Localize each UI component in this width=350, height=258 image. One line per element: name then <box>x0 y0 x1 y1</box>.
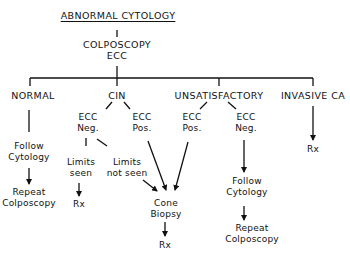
root-node-abnormal-cytology: ABNORMAL CYTOLOGY <box>61 10 176 21</box>
unsat-step2-line1: Repeat <box>225 223 279 234</box>
unsat-repeat-colposcopy: Repeat Colposcopy <box>225 223 279 245</box>
branch-normal: NORMAL <box>11 90 55 101</box>
normal-step1-line1: Follow <box>8 141 49 152</box>
procedure-line1: COLPOSCOPY <box>83 39 151 50</box>
unsat-ecc-pos-line2: Pos. <box>183 123 202 134</box>
normal-follow-cytology: Follow Cytology <box>8 141 49 163</box>
cin-ecc-neg-line2: Neg. <box>77 123 99 134</box>
unsat-step1-line2: Cytology <box>226 187 267 198</box>
limits-not-seen-line2: not seen <box>107 168 148 179</box>
limits-seen-line1: Limits <box>67 157 95 168</box>
cin-ecc-neg-line1: ECC <box>77 112 99 123</box>
cone-biopsy-rx: Rx <box>159 240 171 251</box>
branch-unsatisfactory: UNSATISFACTORY <box>175 90 264 101</box>
cin-ecc-pos-line2: Pos. <box>133 123 152 134</box>
normal-step1-line2: Cytology <box>8 152 49 163</box>
invasive-rx: Rx <box>307 144 319 155</box>
branch-cin: CIN <box>108 90 126 101</box>
limits-not-seen-line1: Limits <box>107 157 148 168</box>
procedure-node-colposcopy: COLPOSCOPY ECC <box>83 39 151 61</box>
procedure-line2: ECC <box>83 50 151 61</box>
cin-limits-seen: Limits seen <box>67 157 95 179</box>
unsat-ecc-neg-line1: ECC <box>235 112 257 123</box>
cin-limits-seen-rx: Rx <box>73 199 85 210</box>
limits-seen-line2: seen <box>67 168 95 179</box>
cone-biopsy-line2: Biopsy <box>150 209 181 220</box>
unsat-step2-line2: Colposcopy <box>225 234 279 245</box>
unsat-ecc-neg: ECC Neg. <box>235 112 257 134</box>
cin-ecc-pos: ECC Pos. <box>133 112 152 134</box>
unsat-ecc-pos-line1: ECC <box>183 112 202 123</box>
unsat-ecc-pos: ECC Pos. <box>183 112 202 134</box>
cin-ecc-neg: ECC Neg. <box>77 112 99 134</box>
unsat-follow-cytology: Follow Cytology <box>226 176 267 198</box>
normal-step2-line1: Repeat <box>2 187 56 198</box>
branch-invasive-ca: INVASIVE CA <box>281 90 345 101</box>
normal-repeat-colposcopy: Repeat Colposcopy <box>2 187 56 209</box>
cin-limits-not-seen: Limits not seen <box>107 157 148 179</box>
cone-biopsy-node: Cone Biopsy <box>150 198 181 220</box>
normal-step2-line2: Colposcopy <box>2 198 56 209</box>
cin-ecc-pos-line1: ECC <box>133 112 152 123</box>
cone-biopsy-line1: Cone <box>150 198 181 209</box>
unsat-step1-line1: Follow <box>226 176 267 187</box>
unsat-ecc-neg-line2: Neg. <box>235 123 257 134</box>
